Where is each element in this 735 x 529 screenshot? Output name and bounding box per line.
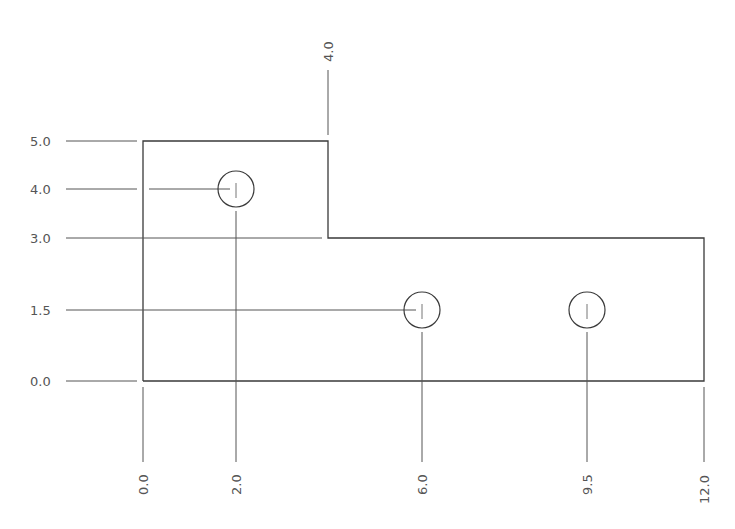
- top-label-4: 4.0: [321, 41, 336, 62]
- x-label-9-5: 9.5: [580, 474, 595, 495]
- part-outline: [143, 141, 704, 381]
- x-label-2: 2.0: [229, 474, 244, 495]
- y-label-1-5: 1.5: [30, 303, 51, 318]
- y-label-3: 3.0: [30, 231, 51, 246]
- y-label-4: 4.0: [30, 182, 51, 197]
- y-label-5: 5.0: [30, 134, 51, 149]
- hole-3: [569, 292, 605, 328]
- x-label-0: 0.0: [136, 474, 151, 495]
- x-label-6: 6.0: [415, 474, 430, 495]
- y-label-0: 0.0: [30, 374, 51, 389]
- x-label-12: 12.0: [697, 475, 712, 504]
- technical-drawing: 5.0 4.0 3.0 1.5 0.0 0.0 2.0 6.0 9.5 12.0…: [0, 0, 735, 529]
